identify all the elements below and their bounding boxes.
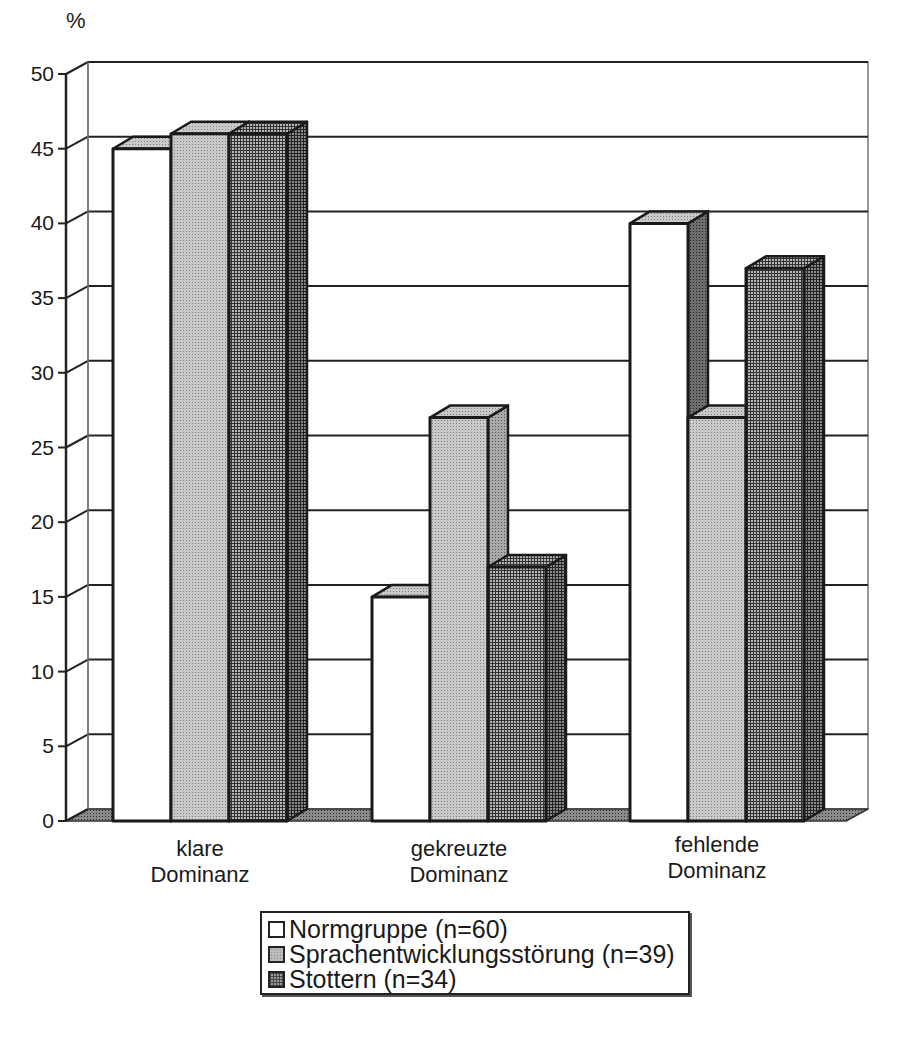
y-tick-label: 50 <box>14 62 54 86</box>
bar-normgruppe <box>113 149 171 821</box>
x-category-label-gekreuzte-dominanz: gekreuzte Dominanz <box>369 836 549 888</box>
category-line: fehlende <box>627 832 807 858</box>
bar-normgruppe <box>372 597 430 821</box>
bar-stottern <box>229 134 287 821</box>
x-category-label-klare-dominanz: klare Dominanz <box>110 836 290 888</box>
y-tick-label: 15 <box>14 585 54 609</box>
y-tick-label: 10 <box>14 660 54 684</box>
y-axis-unit-label: % <box>66 8 86 34</box>
y-tick-label: 5 <box>14 734 54 758</box>
y-tick-label: 20 <box>14 510 54 534</box>
category-line: gekreuzte <box>369 836 549 862</box>
legend-label: Normgruppe (n=60) <box>289 917 508 942</box>
legend-label: Sprachentwicklungsstörung (n=39) <box>289 942 675 967</box>
chart-legend: Normgruppe (n=60) Sprachentwicklungsstör… <box>260 911 690 995</box>
grid-gray-swatch-icon <box>268 971 285 988</box>
plot-area <box>58 62 868 821</box>
x-category-label-fehlende-dominanz: fehlende Dominanz <box>627 832 807 884</box>
white-swatch-icon <box>268 921 285 938</box>
legend-item-sprachentwicklungsstoerung: Sprachentwicklungsstörung (n=39) <box>268 942 688 967</box>
y-tick-label: 35 <box>14 286 54 310</box>
category-line: klare <box>110 836 290 862</box>
legend-item-stottern: Stottern (n=34) <box>268 967 688 992</box>
y-tick-label: 40 <box>14 211 54 235</box>
legend-label: Stottern (n=34) <box>289 967 456 992</box>
y-tick-label: 25 <box>14 436 54 460</box>
category-line: Dominanz <box>627 858 807 884</box>
bar-side <box>804 256 824 821</box>
bar-normgruppe <box>630 223 688 821</box>
category-line: Dominanz <box>369 862 549 888</box>
bar-sprachentwicklungsstoerung <box>171 134 229 821</box>
bar-stottern <box>746 268 804 821</box>
y-tick-label: 0 <box>14 809 54 833</box>
bar-side <box>546 555 566 821</box>
bar-sprachentwicklungsstoerung <box>688 418 746 821</box>
y-tick-label: 30 <box>14 361 54 385</box>
category-line: Dominanz <box>110 862 290 888</box>
bar-side <box>287 122 307 821</box>
y-tick-label: 45 <box>14 137 54 161</box>
bar-sprachentwicklungsstoerung <box>430 418 488 821</box>
dotted-gray-swatch-icon <box>268 946 285 963</box>
legend-item-normgruppe: Normgruppe (n=60) <box>268 917 688 942</box>
bar-stottern <box>488 567 546 821</box>
